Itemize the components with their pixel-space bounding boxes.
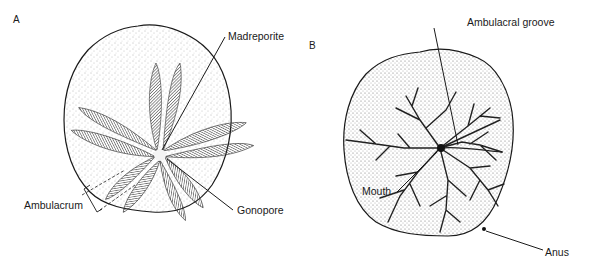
gonopore-label: Gonopore [237,205,284,216]
anus-leader [486,231,543,250]
mouth-label: Mouth [362,186,391,197]
anus-opening [482,227,486,231]
ambulacrum-label: Ambulacrum [24,200,83,211]
ambulacral-groove-label: Ambulacral groove [467,17,555,28]
panel-label-b: B [309,41,316,51]
panel-label-a: A [13,15,20,25]
mouth-opening [437,144,445,152]
anus-label: Anus [545,247,569,258]
madreporite-label: Madreporite [228,31,284,42]
sand-dollar-aboral-drawing [64,25,254,221]
figure-canvas [0,0,609,267]
sand-dollar-oral-drawing [344,49,514,236]
